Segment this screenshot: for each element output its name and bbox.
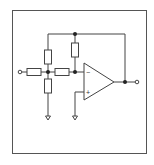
resistor-feedback xyxy=(72,43,79,57)
circuit-diagram: − + xyxy=(0,0,154,165)
resistor-input xyxy=(27,69,41,76)
output-terminal xyxy=(135,80,139,84)
schematic xyxy=(0,0,154,165)
resistor-lower-tee xyxy=(45,79,52,93)
ground-tee-icon xyxy=(46,116,51,120)
junction-dot xyxy=(73,32,77,36)
junction-dot xyxy=(46,70,50,74)
junction-dot xyxy=(73,70,77,74)
inverting-input-label: − xyxy=(86,69,90,76)
ground-noninverting-icon xyxy=(73,116,78,120)
resistor-series xyxy=(55,69,69,76)
noninverting-input-label: + xyxy=(86,89,90,96)
input-terminal xyxy=(18,70,22,74)
resistor-upper-tee xyxy=(45,50,52,64)
junction-dot xyxy=(123,80,127,84)
